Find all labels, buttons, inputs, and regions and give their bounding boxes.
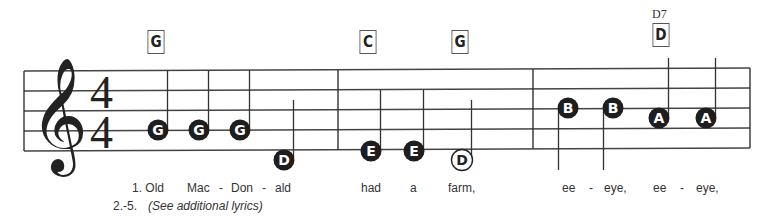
note-letter: A xyxy=(701,110,712,126)
note-b: B xyxy=(558,98,579,171)
chord-box-d: D xyxy=(653,23,670,47)
lyric-syllable: - xyxy=(219,181,223,195)
note-e: E xyxy=(361,90,382,162)
note-letter: G xyxy=(234,122,246,138)
lyric-syllable: ald xyxy=(275,181,291,195)
note-letter: D xyxy=(278,152,290,168)
time-signature-bottom: 4 xyxy=(90,107,113,158)
note-d: D xyxy=(452,100,473,171)
note-e: E xyxy=(404,90,425,162)
staff-lines xyxy=(24,68,750,151)
verse-number-2-5: 2.-5. xyxy=(113,199,137,213)
note-letter: G xyxy=(193,122,205,138)
chord-box-c: C xyxy=(360,30,377,54)
note-letter: B xyxy=(563,100,574,116)
lyric-syllable: ee xyxy=(653,181,666,195)
note-g: G xyxy=(148,70,169,141)
notes: GGGDEEDBBAA xyxy=(148,58,717,171)
note-letter: E xyxy=(366,143,376,159)
lyric-syllable: had xyxy=(361,181,381,195)
svg-text:𝄞: 𝄞 xyxy=(30,57,88,177)
note-g: G xyxy=(189,70,210,141)
lyric-syllable: - xyxy=(589,181,593,195)
lyric-syllable: Mac xyxy=(187,181,210,195)
note-letter: D xyxy=(456,152,468,168)
note-letter: E xyxy=(409,143,419,159)
lyric-syllable: Don xyxy=(231,181,253,195)
chord-label-d7: D7 xyxy=(652,7,667,22)
lyric-syllable: a xyxy=(410,181,417,195)
note-g: G xyxy=(230,70,251,141)
note-letter: A xyxy=(654,110,665,126)
lyric-syllable: ee xyxy=(562,181,575,195)
note-b: B xyxy=(603,98,624,171)
chord-box-g: G xyxy=(148,30,165,54)
chord-box-g: G xyxy=(452,30,469,54)
lyric-syllable: farm, xyxy=(448,181,475,195)
lyric-syllable: eye, xyxy=(696,181,719,195)
note-letter: G xyxy=(152,122,164,138)
note-letter: B xyxy=(608,100,619,116)
lyric-syllable: 1. Old xyxy=(132,181,164,195)
additional-lyrics-note: (See additional lyrics) xyxy=(148,199,263,213)
lyric-syllable: - xyxy=(262,181,266,195)
treble-clef-icon: 𝄞 xyxy=(30,57,88,177)
lyric-syllable: eye, xyxy=(604,181,627,195)
time-signature: 4 4 xyxy=(90,67,113,158)
lyric-syllable: - xyxy=(680,181,684,195)
